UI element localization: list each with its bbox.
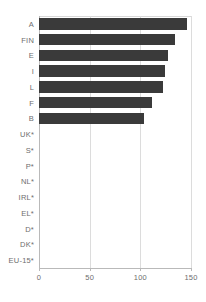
category-label-F: F — [29, 98, 34, 107]
bar-row: P* — [0, 158, 206, 174]
bar-row: L — [0, 79, 206, 95]
category-label-E: E — [29, 51, 34, 60]
category-label-L: L — [30, 82, 34, 91]
x-tick-50 — [90, 268, 91, 271]
category-label-A: A — [29, 19, 34, 28]
bar-F — [39, 97, 152, 109]
x-tick-0 — [39, 268, 40, 271]
bar-row: S* — [0, 142, 206, 158]
bar-A — [39, 18, 187, 30]
category-label-EL: EL* — [21, 208, 34, 217]
category-label-UK: UK* — [20, 130, 34, 139]
x-axis-line — [39, 268, 192, 269]
category-label-P: P* — [26, 161, 34, 170]
bar-row: IRL* — [0, 189, 206, 205]
bar-row: D* — [0, 221, 206, 237]
bar-row: EU-15* — [0, 252, 206, 268]
bar-chart: 050100150 AFINEILFBUK*S*P*NL*IRL*EL*D*DK… — [0, 0, 206, 302]
category-label-I: I — [32, 67, 34, 76]
bar-I — [39, 65, 165, 77]
bar-row: B — [0, 111, 206, 127]
x-tick-label-50: 50 — [85, 273, 94, 282]
x-tick-150 — [191, 268, 192, 271]
category-label-EU15: EU-15* — [9, 256, 34, 265]
x-tick-label-150: 150 — [184, 273, 197, 282]
category-label-DK: DK* — [20, 240, 34, 249]
bar-L — [39, 81, 163, 93]
bar-row: FIN — [0, 32, 206, 48]
category-label-S: S* — [26, 145, 34, 154]
bar-row: EL* — [0, 205, 206, 221]
bar-row: F — [0, 95, 206, 111]
bar-row: DK* — [0, 237, 206, 253]
bar-row: NL* — [0, 174, 206, 190]
x-tick-label-100: 100 — [134, 273, 147, 282]
category-label-B: B — [29, 114, 34, 123]
bar-E — [39, 50, 168, 62]
bar-B — [39, 113, 144, 125]
bar-row: I — [0, 63, 206, 79]
category-label-IRL: IRL* — [19, 193, 34, 202]
category-label-NL: NL* — [21, 177, 34, 186]
category-label-FIN: FIN — [21, 35, 34, 44]
bar-row: E — [0, 48, 206, 64]
x-tick-100 — [140, 268, 141, 271]
bar-row: A — [0, 16, 206, 32]
category-label-D: D* — [25, 224, 34, 233]
bar-row: UK* — [0, 126, 206, 142]
x-tick-label-0: 0 — [37, 273, 41, 282]
bar-FIN — [39, 34, 175, 46]
